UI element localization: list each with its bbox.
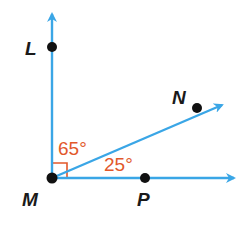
angle-label-NMP: 25° [104, 154, 133, 175]
point-L [47, 42, 57, 52]
label-N: N [172, 87, 187, 108]
label-L: L [25, 38, 37, 59]
point-N [192, 103, 202, 113]
label-P: P [137, 189, 150, 210]
point-P [140, 173, 150, 183]
point-M [47, 173, 58, 184]
geometry-diagram: L M N P 65° 25° [0, 0, 244, 230]
angle-label-LMN: 65° [58, 138, 87, 159]
label-M: M [22, 189, 39, 210]
